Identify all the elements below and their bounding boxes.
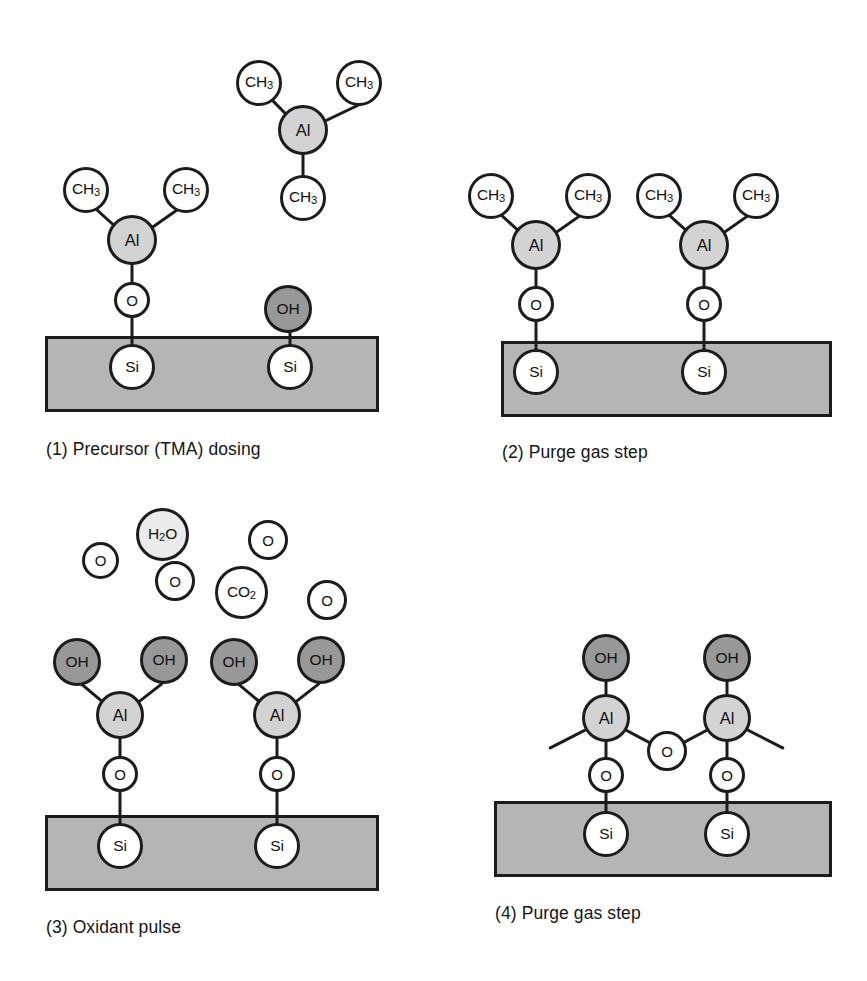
atom-oh-p1: OH	[264, 285, 312, 333]
atom-ch3-right-g2-p2: CH3	[733, 173, 779, 219]
atom-o-bridge-p4: O	[647, 731, 687, 771]
caption-panel3: (3) Oxidant pulse	[46, 917, 181, 938]
substrate-bar-panel3	[45, 815, 379, 891]
atom-label: OH	[66, 654, 89, 670]
atom-label: CH3	[72, 181, 100, 199]
gas-atom-o-2: O	[155, 561, 195, 601]
panel-precursor-dosing: CH3 CH3 Al CH3 CH3 CH3 Al O Si OH Si (1)…	[0, 0, 434, 490]
caption-panel2: (2) Purge gas step	[502, 442, 648, 463]
atom-oh-g2-p4: OH	[703, 634, 751, 682]
atom-label: CH3	[574, 187, 602, 205]
atom-label: OH	[153, 652, 176, 668]
atom-si-g1-p2: Si	[513, 349, 559, 395]
atom-oh-left-g1-p3: OH	[53, 638, 101, 686]
atom-label: OH	[277, 301, 300, 317]
gas-atom-o-1: O	[82, 542, 119, 579]
atom-oh-left-g2-p3: OH	[210, 638, 258, 686]
atom-label: OH	[223, 654, 246, 670]
atom-label: OH	[716, 650, 739, 666]
gas-molecule-co2: CO2	[215, 566, 268, 619]
atom-oh-right-g1-p3: OH	[140, 636, 188, 684]
atom-o-g2-p4: O	[709, 757, 745, 793]
atom-label: O	[698, 297, 709, 312]
atom-label: CO2	[227, 584, 256, 602]
atom-label: O	[600, 768, 611, 783]
gas-molecule-h2o: H2O	[136, 508, 189, 561]
atom-o-g1-p3: O	[102, 756, 138, 792]
atom-label: O	[321, 593, 332, 608]
atom-label: CH3	[245, 74, 273, 92]
atom-label: Si	[283, 359, 296, 375]
atom-ch3-gas-right: CH3	[336, 60, 382, 106]
atom-al-gas: Al	[278, 105, 328, 155]
atom-label: Al	[113, 707, 127, 724]
caption-panel1: (1) Precursor (TMA) dosing	[46, 439, 261, 460]
atom-label: Si	[720, 826, 733, 842]
atom-si-right-p1: Si	[267, 344, 313, 390]
atom-label: Si	[270, 838, 283, 854]
atom-label: Si	[599, 826, 612, 842]
gas-atom-o-3: O	[248, 520, 288, 560]
atom-al-g1-p3: Al	[96, 691, 144, 739]
atom-label: O	[169, 574, 180, 589]
atom-al-g1-p2: Al	[511, 220, 561, 270]
atom-o-surface-p1: O	[114, 282, 150, 318]
atom-label: OH	[310, 652, 333, 668]
atom-label: Al	[529, 237, 543, 254]
substrate-bar-panel1	[45, 336, 379, 412]
caption-panel4: (4) Purge gas step	[495, 903, 641, 924]
atom-ch3-surface-right-p1: CH3	[163, 167, 209, 213]
substrate-bar-panel4	[494, 801, 832, 877]
atom-label: CH3	[742, 187, 770, 205]
atom-al-surface-p1: Al	[107, 215, 157, 265]
atom-al-g1-p4: Al	[582, 694, 630, 742]
atom-label: Si	[125, 359, 138, 375]
atom-label: CH3	[345, 74, 373, 92]
atom-label: O	[661, 744, 672, 759]
atom-al-g2-p2: Al	[679, 220, 729, 270]
atom-label: CH3	[172, 181, 200, 199]
atom-label: Al	[599, 710, 613, 727]
atom-ch3-right-g1-p2: CH3	[565, 173, 611, 219]
atom-label: Al	[270, 707, 284, 724]
atom-label: O	[271, 767, 282, 782]
atom-label: Si	[697, 364, 710, 380]
atom-label: Al	[697, 237, 711, 254]
atom-oh-right-g2-p3: OH	[297, 636, 345, 684]
atom-ch3-surface-left-p1: CH3	[63, 167, 109, 213]
atom-label: Al	[296, 122, 310, 139]
atom-label: O	[262, 533, 273, 548]
atom-si-g1-p4: Si	[583, 811, 629, 857]
atom-ch3-left-g2-p2: CH3	[636, 173, 682, 219]
atom-label: OH	[595, 650, 618, 666]
atom-label: O	[126, 293, 137, 308]
atom-al-g2-p4: Al	[703, 694, 751, 742]
atom-label: O	[530, 297, 541, 312]
atom-label: Al	[720, 710, 734, 727]
atom-ch3-gas-left: CH3	[236, 60, 282, 106]
atom-o-g1-p2: O	[518, 286, 554, 322]
atom-si-g1-p3: Si	[97, 823, 143, 869]
atom-ch3-gas-bottom: CH3	[280, 175, 326, 221]
atom-o-g1-p4: O	[588, 757, 624, 793]
atom-al-g2-p3: Al	[253, 691, 301, 739]
panel-purge-step-1: CH3 CH3 Al O Si CH3 CH3 Al O Si (2) Purg…	[434, 0, 867, 490]
atom-label: O	[95, 553, 106, 568]
atom-label: CH3	[289, 189, 317, 207]
atom-label: O	[721, 768, 732, 783]
atom-label: O	[114, 767, 125, 782]
panel-purge-step-2: OH Al O Si OH Al O Si O (4) Purge gas st…	[434, 490, 867, 981]
atom-si-g2-p4: Si	[704, 811, 750, 857]
atom-label: Al	[125, 232, 139, 249]
atom-label: H2O	[148, 526, 177, 544]
atom-si-left-p1: Si	[109, 344, 155, 390]
atom-oh-g1-p4: OH	[582, 634, 630, 682]
atom-o-g2-p2: O	[686, 286, 722, 322]
atom-label: CH3	[477, 187, 505, 205]
panel-oxidant-pulse: O H2O O O CO2 O OH OH Al O Si OH OH	[0, 490, 434, 981]
atom-label: Si	[113, 838, 126, 854]
atom-si-g2-p3: Si	[254, 823, 300, 869]
atom-label: Si	[529, 364, 542, 380]
atom-o-g2-p3: O	[259, 756, 295, 792]
atom-si-g2-p2: Si	[681, 349, 727, 395]
